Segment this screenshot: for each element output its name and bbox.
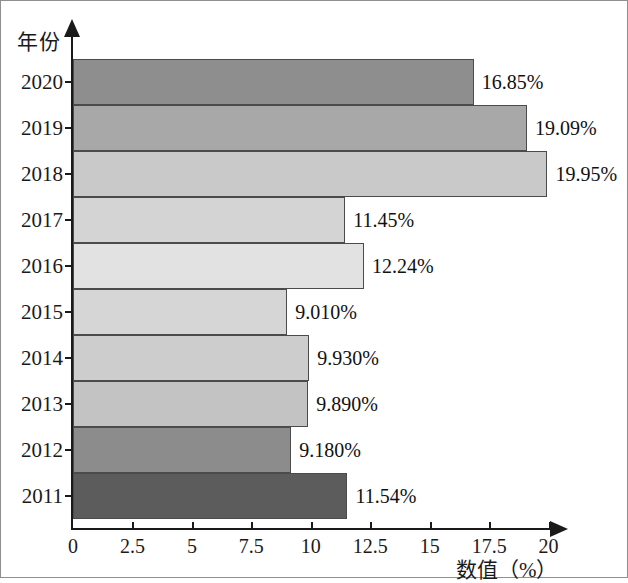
bar bbox=[73, 335, 309, 381]
y-axis-tick-label: 2015 bbox=[1, 300, 63, 325]
y-axis-tick-mark bbox=[65, 311, 73, 313]
x-axis-tick-mark bbox=[132, 522, 134, 529]
y-axis-tick-label: 2018 bbox=[1, 162, 63, 187]
y-axis-tick-mark bbox=[65, 219, 73, 221]
bar-value-label: 9.930% bbox=[317, 347, 379, 370]
y-axis-arrow-icon bbox=[64, 19, 80, 37]
x-axis-tick-label: 20 bbox=[539, 535, 559, 558]
bar bbox=[73, 289, 287, 335]
y-axis-tick-label: 2014 bbox=[1, 346, 63, 371]
y-axis-tick-label: 2016 bbox=[1, 254, 63, 279]
bar-value-label: 16.85% bbox=[482, 71, 544, 94]
x-axis-tick-mark bbox=[311, 522, 313, 529]
x-axis-tick-mark bbox=[549, 522, 551, 529]
bar-value-label: 19.95% bbox=[555, 163, 617, 186]
x-axis-tick-mark bbox=[430, 522, 432, 529]
bar-value-label: 9.890% bbox=[316, 393, 378, 416]
bar bbox=[73, 105, 527, 151]
bar bbox=[73, 427, 291, 473]
y-axis-tick-label: 2012 bbox=[1, 438, 63, 463]
y-axis-tick-label: 2013 bbox=[1, 392, 63, 417]
y-axis-tick-label: 2020 bbox=[1, 70, 63, 95]
y-axis-tick-mark bbox=[65, 127, 73, 129]
x-axis-tick-mark bbox=[251, 522, 253, 529]
y-axis-tick-label: 2019 bbox=[1, 116, 63, 141]
y-axis-title: 年份 bbox=[17, 25, 61, 55]
y-axis-tick-mark bbox=[65, 81, 73, 83]
bar-value-label: 11.45% bbox=[353, 209, 414, 232]
x-axis-tick-mark bbox=[192, 522, 194, 529]
x-axis-tick-label: 2.5 bbox=[120, 535, 145, 558]
bar bbox=[73, 381, 308, 427]
bar-value-label: 12.24% bbox=[372, 255, 434, 278]
y-axis-tick-mark bbox=[65, 265, 73, 267]
x-axis-tick-label: 0 bbox=[68, 535, 78, 558]
x-axis-tick-label: 17.5 bbox=[472, 535, 507, 558]
y-axis-tick-label: 2017 bbox=[1, 208, 63, 233]
y-axis-tick-mark bbox=[65, 449, 73, 451]
bar-value-label: 9.010% bbox=[295, 301, 357, 324]
bar bbox=[73, 197, 345, 243]
bar bbox=[73, 151, 547, 197]
y-axis-tick-mark bbox=[65, 495, 73, 497]
x-axis-tick-label: 15 bbox=[420, 535, 440, 558]
y-axis-tick-mark bbox=[65, 357, 73, 359]
bar-value-label: 11.54% bbox=[355, 485, 416, 508]
x-axis-tick-label: 7.5 bbox=[239, 535, 264, 558]
x-axis-tick-label: 5 bbox=[187, 535, 197, 558]
y-axis-tick-mark bbox=[65, 173, 73, 175]
bar bbox=[73, 243, 364, 289]
x-axis-tick-mark bbox=[489, 522, 491, 529]
y-axis-tick-label: 2011 bbox=[1, 484, 63, 509]
x-axis-tick-mark bbox=[370, 522, 372, 529]
x-axis-tick-label: 12.5 bbox=[353, 535, 388, 558]
bar-value-label: 9.180% bbox=[299, 439, 361, 462]
x-axis-tick-label: 10 bbox=[301, 535, 321, 558]
bar-value-label: 19.09% bbox=[535, 117, 597, 140]
y-axis-tick-mark bbox=[65, 403, 73, 405]
bar bbox=[73, 473, 347, 519]
bar bbox=[73, 59, 474, 105]
